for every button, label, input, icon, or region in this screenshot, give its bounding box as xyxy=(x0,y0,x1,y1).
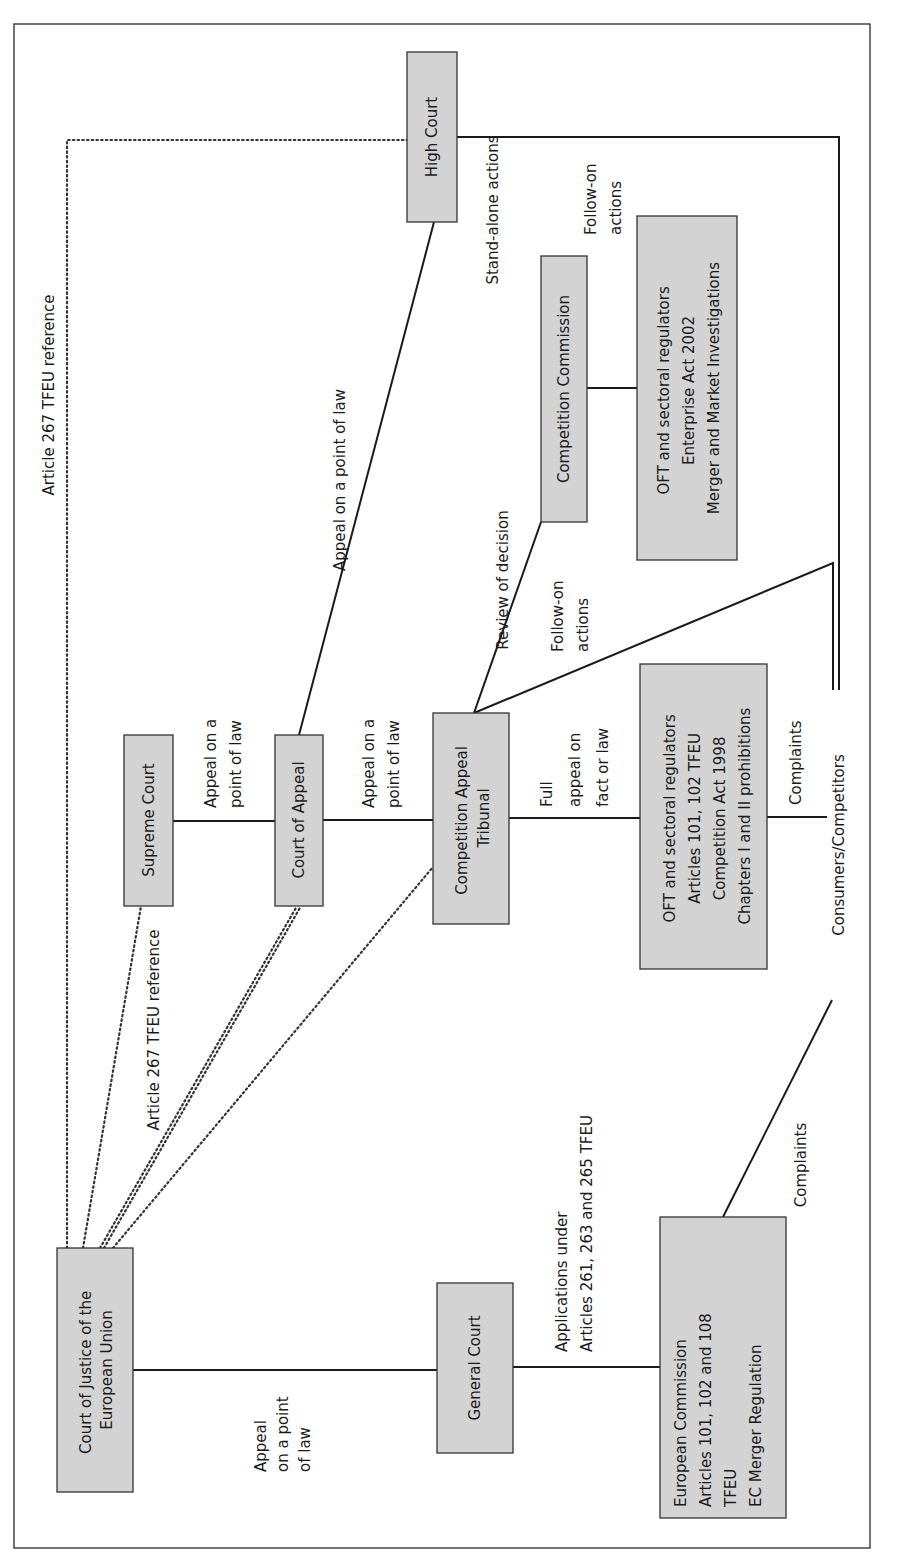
svg-text:Consumers/Competitors: Consumers/Competitors xyxy=(830,754,848,936)
label-review-of-decision: Review of decision xyxy=(494,510,512,649)
svg-text:Competition Commission: Competition Commission xyxy=(555,295,573,483)
general-court-label: General Court xyxy=(466,1315,484,1420)
svg-text:Court of Appeal: Court of Appeal xyxy=(290,761,308,878)
cjeu-label-line-2: European Union xyxy=(98,1310,116,1430)
label-cjeu-gc-appeal: Appeal on a point of law xyxy=(252,1392,314,1472)
cjeu-label-line-1: Court of Justice of the xyxy=(77,1291,95,1454)
label-ca-cat-appeal: Appeal on a point of law xyxy=(360,714,403,808)
cat-label-line-1: Competition Appeal xyxy=(453,746,471,894)
node-cjeu: Court of Justice of the European Union xyxy=(57,1248,133,1492)
node-general-court: General Court xyxy=(437,1283,513,1453)
label-ca-hc-appeal: Appeal on a point of law xyxy=(331,389,349,571)
node-oft-competition-act: OFT and sectoral regulators Articles 101… xyxy=(640,664,767,969)
supreme-court-label: Supreme Court xyxy=(140,763,158,877)
court-of-appeal-label: Court of Appeal xyxy=(290,761,308,878)
edge-court-of-appeal-high-court xyxy=(299,222,434,735)
oft-ca98-label-line-3: Competition Act 1998 xyxy=(711,737,729,901)
consumers-competitors-label: Consumers/Competitors xyxy=(830,754,848,936)
article-267-references xyxy=(67,140,433,1248)
edge-commission-consumers xyxy=(723,1000,832,1217)
oft-ca98-label-line-1: OFT and sectoral regulators xyxy=(661,714,679,922)
svg-text:High Court: High Court xyxy=(423,97,441,178)
label-hc-follow-on: Follow-on actions xyxy=(582,159,625,235)
uk-eu-competition-court-diagram: Court of Justice of the European Union G… xyxy=(0,0,906,1558)
oft-ea02-label-line-1: OFT and sectoral regulators xyxy=(655,286,673,494)
node-oft-enterprise-act: OFT and sectoral regulators Enterprise A… xyxy=(637,216,737,560)
commission-label-line-4: EC Merger Regulation xyxy=(747,1344,765,1507)
label-oft-complaints: Complaints xyxy=(787,720,805,805)
dotted-cjeu-supreme-court xyxy=(83,906,141,1248)
oft-ea02-label-line-3: Merger and Market Investigations xyxy=(705,262,723,514)
label-cat-oft-full-appeal: Full appeal on fact or law xyxy=(538,728,612,807)
label-gc-ec-applications: Applications under Articles 261, 263 and… xyxy=(553,1115,596,1352)
svg-text:General Court: General Court xyxy=(466,1315,484,1420)
node-european-commission: European Commission Articles 101, 102 an… xyxy=(660,1217,786,1518)
label-stand-alone: Stand-alone actions xyxy=(484,135,502,284)
high-court-label: High Court xyxy=(423,97,441,178)
label-article-267-top: Article 267 TFEU reference xyxy=(40,295,58,496)
dotted-cjeu-court-of-appeal-b xyxy=(104,906,301,1248)
node-high-court: High Court xyxy=(407,52,457,222)
cat-label-line-2: Tribunal xyxy=(475,788,493,848)
node-consumers-competitors: Consumers/Competitors xyxy=(830,754,848,936)
node-supreme-court: Supreme Court xyxy=(124,735,173,906)
dotted-cjeu-court-of-appeal-a xyxy=(100,906,297,1248)
label-sc-ca-appeal: Appeal on a point of law xyxy=(202,714,245,808)
node-court-of-appeal: Court of Appeal xyxy=(275,735,323,906)
commission-label-line-2: Articles 101, 102 and 108 xyxy=(697,1313,715,1507)
dotted-cjeu-high-court xyxy=(67,140,407,1248)
label-cat-follow-on: Follow-on actions xyxy=(549,576,592,652)
oft-ca98-label-line-2: Articles 101, 102 TFEU xyxy=(686,733,704,904)
label-ec-complaints: Complaints xyxy=(792,1123,810,1208)
svg-text:Supreme Court: Supreme Court xyxy=(140,763,158,877)
commission-label-line-3: TFEU xyxy=(722,1469,740,1508)
node-competition-appeal-tribunal: Competition Appeal Tribunal xyxy=(433,713,509,924)
oft-ea02-label-line-2: Enterprise Act 2002 xyxy=(680,316,698,465)
commission-label-line-1: European Commission xyxy=(672,1339,690,1507)
oft-ca98-label-line-4: Chapters I and II prohibitions xyxy=(736,707,754,924)
node-competition-commission: Competition Commission xyxy=(541,256,587,522)
competition-commission-label: Competition Commission xyxy=(555,295,573,483)
label-article-267-lower: Article 267 TFEU reference xyxy=(145,930,163,1131)
